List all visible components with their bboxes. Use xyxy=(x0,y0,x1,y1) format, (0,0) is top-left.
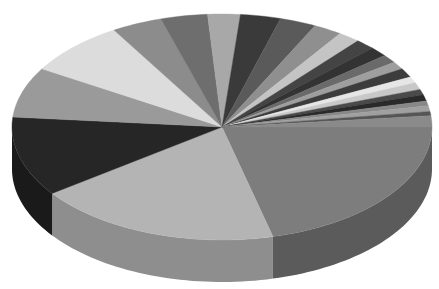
pie-top-slices xyxy=(12,14,432,240)
pie-chart-3d xyxy=(0,0,439,289)
